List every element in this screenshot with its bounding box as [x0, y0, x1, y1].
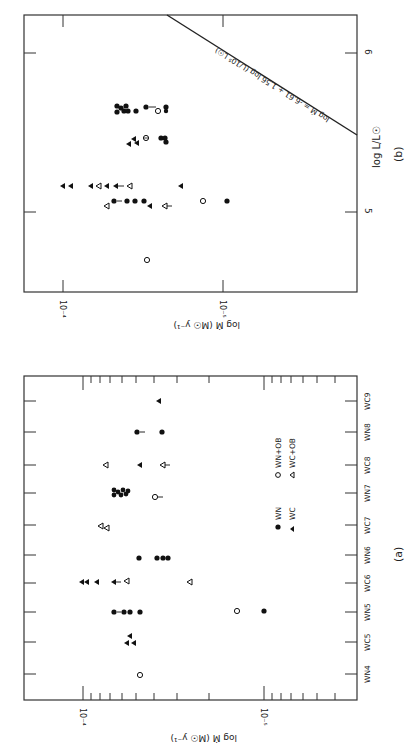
ylabel-tick-1e-5: 10⁻⁵ — [218, 300, 227, 318]
category-label: WC5 — [363, 633, 372, 651]
panel-a-spectral-ticks — [24, 401, 357, 674]
panel-b-frame — [24, 15, 357, 292]
svg-text:WC: WC — [288, 507, 297, 520]
ylabel-tick-1e-5: 10⁻⁵ — [259, 708, 268, 726]
category-label: WC6 — [363, 574, 372, 592]
panel-a-category-labels: WC9 WN8 WC8 WN7 WC7 WN6 WC6 WN5 WC5 WN4 — [363, 392, 372, 683]
category-label: WN6 — [363, 546, 372, 564]
svg-text:WN: WN — [274, 507, 283, 520]
panel-b-y-axis-label: log Ṁ (M☉ y⁻¹) — [173, 320, 240, 330]
xlabel-tick-6: 6 — [363, 49, 373, 55]
category-label: WC8 — [363, 456, 372, 474]
category-label: WC9 — [363, 392, 372, 410]
svg-text:WC+OB: WC+OB — [288, 438, 297, 468]
panel-b-points — [60, 103, 230, 262]
panel-b: log Ṁ = -6.61 + 1.56 log (L/10⁵ L☉) 10⁻⁴… — [24, 15, 405, 330]
category-label: WN4 — [363, 665, 372, 683]
svg-text:WN+OB: WN+OB — [274, 438, 283, 468]
figure: log Ṁ = -6.61 + 1.56 log (L/10⁵ L☉) 10⁻⁴… — [0, 0, 420, 751]
category-label: WC7 — [363, 516, 372, 534]
panel-a-legend: WN WC WN+OB WC+OB — [274, 438, 297, 532]
ylabel-tick-1e-4: 10⁻⁴ — [58, 300, 67, 318]
panel-a-label: (a) — [392, 547, 405, 562]
ylabel-tick-1e-4: 10⁻⁴ — [78, 708, 87, 726]
xlabel-tick-5: 5 — [363, 208, 373, 214]
panel-a-mdot-ticks — [83, 376, 335, 700]
fit-line-label: log Ṁ = -6.61 + 1.56 log (L/10⁵ L☉) — [213, 46, 331, 124]
panel-b-x-axis-label: log L/L☉ — [371, 126, 382, 168]
panel-a-y-axis-label: log Ṁ (M☉ y⁻¹) — [170, 733, 237, 743]
panel-a-points — [79, 398, 267, 678]
category-label: WN8 — [363, 423, 372, 441]
panel-a-frame — [24, 376, 357, 700]
category-label: WN5 — [363, 603, 372, 621]
panel-b-label: (b) — [392, 146, 405, 162]
panel-a: WC9 WN8 WC8 WN7 WC7 WN6 WC6 WN5 WC5 WN4 … — [24, 376, 405, 743]
category-label: WN7 — [363, 484, 372, 502]
